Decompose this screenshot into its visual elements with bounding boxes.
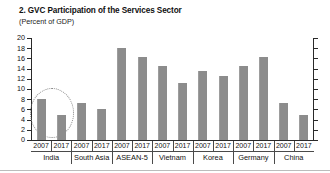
x-axis-year-label: 2017 <box>51 142 71 150</box>
y-axis-tick-mark <box>27 58 31 59</box>
x-axis-year-label: 2007 <box>274 142 294 150</box>
y-axis-tick-mark-right <box>314 89 318 90</box>
y-axis-tick-label: 8 <box>21 96 25 103</box>
bar <box>178 83 187 140</box>
y-axis-tick-mark <box>27 130 31 131</box>
y-axis-tick-mark <box>27 109 31 110</box>
y-axis-tick-mark-right <box>314 38 318 39</box>
y-axis-tick-mark <box>27 140 31 141</box>
bar <box>198 71 207 140</box>
chart-subtitle: (Percent of GDP) <box>19 17 74 26</box>
bar <box>259 57 268 140</box>
x-axis-year-label: 2007 <box>31 142 51 150</box>
x-axis-year-label: 2017 <box>294 142 314 150</box>
plot-area <box>31 38 314 140</box>
y-axis-tick-mark <box>27 48 31 49</box>
y-axis-tick-mark-right <box>314 109 318 110</box>
x-axis-group-label: Vietnam <box>152 153 192 162</box>
bar <box>158 66 167 140</box>
y-axis-tick-mark <box>27 89 31 90</box>
bar <box>117 48 126 140</box>
bar <box>239 66 248 140</box>
y-axis-tick-label: 6 <box>21 106 25 113</box>
y-axis-tick-mark-right <box>314 48 318 49</box>
x-axis-group-label: China <box>274 153 314 162</box>
y-axis-tick-mark <box>27 120 31 121</box>
x-axis-group-label: ASEAN-5 <box>112 153 152 162</box>
y-axis-tick-label: 16 <box>17 55 25 62</box>
bar <box>299 115 308 141</box>
y-axis-tick-mark-right <box>314 130 318 131</box>
chart-figure: 2. GVC Participation of the Services Sec… <box>0 0 330 173</box>
bar <box>97 109 106 140</box>
x-axis-year-label: 2017 <box>173 142 193 150</box>
y-axis-tick-mark-right <box>314 99 318 100</box>
bar <box>279 103 288 140</box>
x-axis-group-label: South Asia <box>71 153 111 162</box>
x-axis-year-label: 2017 <box>132 142 152 150</box>
x-axis-group-label: Germany <box>233 153 273 162</box>
y-axis-tick-mark-right <box>314 79 318 80</box>
y-axis-tick-mark-right <box>314 120 318 121</box>
chart-title: 2. GVC Participation of the Services Sec… <box>19 6 182 15</box>
y-axis-tick-mark-right <box>314 69 318 70</box>
y-axis-tick-label: 2 <box>21 126 25 133</box>
y-axis-tick-label: 20 <box>17 34 25 41</box>
y-axis-tick-label: 0 <box>21 136 25 143</box>
bar <box>57 115 66 141</box>
bar <box>77 103 86 140</box>
category-axis-divider <box>31 151 314 152</box>
y-axis-tick-label: 18 <box>17 45 25 52</box>
y-axis-tick-mark-right <box>314 58 318 59</box>
footer-rule <box>0 170 330 171</box>
x-axis-year-label: 2007 <box>71 142 91 150</box>
x-axis-group-label: India <box>31 153 71 162</box>
x-axis-year-label: 2007 <box>112 142 132 150</box>
bar <box>219 76 228 140</box>
x-axis-year-label: 2007 <box>152 142 172 150</box>
x-axis-group-label: Korea <box>193 153 233 162</box>
bar <box>37 99 46 140</box>
y-axis-tick-label: 12 <box>17 75 25 82</box>
x-axis-year-label: 2007 <box>233 142 253 150</box>
bar <box>138 57 147 140</box>
x-axis-year-label: 2017 <box>253 142 273 150</box>
x-axis-year-label: 2017 <box>213 142 233 150</box>
y-axis-tick-labels: 20181614121086420 <box>0 0 25 173</box>
y-axis-tick-mark <box>27 99 31 100</box>
y-axis-tick-label: 4 <box>21 116 25 123</box>
y-axis-tick-mark <box>27 79 31 80</box>
y-axis-tick-mark <box>27 69 31 70</box>
y-axis-tick-label: 10 <box>17 85 25 92</box>
y-axis-tick-mark <box>27 38 31 39</box>
y-axis-tick-label: 14 <box>17 65 25 72</box>
y-axis-tick-mark-right <box>314 140 318 141</box>
x-axis-year-label: 2007 <box>193 142 213 150</box>
x-axis-year-label: 2017 <box>92 142 112 150</box>
